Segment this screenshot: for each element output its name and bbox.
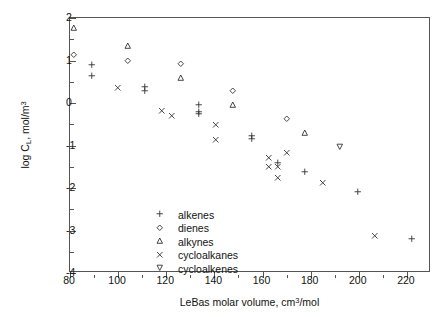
data-point-cycloalkanes [274,174,283,183]
data-point-alkynes [301,129,310,138]
data-point-cycloalkanes [212,121,221,130]
legend-label: cycloalkanes [178,249,238,261]
y-axis-title-mid: , mol/m [19,105,31,139]
y-axis-title: log CL, mol/m3 [19,45,33,225]
y-axis-title-superscript: 3 [19,101,28,105]
x-tick-label: 220 [397,274,415,286]
data-point-dienes [229,87,238,96]
legend-label: alkenes [178,209,214,221]
legend-marker-cross-icon [152,249,178,263]
x-tick-label: 140 [205,274,223,286]
data-point-cycloalkanes [168,112,177,121]
data-point-alkenes [408,235,417,244]
y-axis-title-prefix: log C [19,144,31,169]
scatter-chart-figure: log CL, mol/m3 LeBas molar volume, cm3/m… [0,0,445,317]
legend-marker-diamond-icon [152,222,178,236]
x-tick-minor [383,275,384,279]
data-point-alkenes [354,188,363,197]
x-axis-title: LeBas molar volume, cm3/mol [69,296,430,308]
x-tick-label: 100 [108,274,126,286]
plot-area: alkenesdienesalkynescycloalkanescycloalk… [69,17,430,272]
legend-label: alkynes [178,236,214,248]
chart-legend: alkenesdienesalkynescycloalkanescycloalk… [152,208,238,276]
x-tick-label: 200 [349,274,367,286]
data-point-dienes [124,57,133,66]
x-tick-minor [94,275,95,279]
legend-marker-triangle-up-icon [152,235,178,249]
data-point-cycloalkanes [158,107,167,116]
legend-label: cycloalkenes [178,263,238,275]
y-tick-minor [70,124,74,125]
data-point-alkynes [70,24,79,33]
x-axis-title-prefix: LeBas molar volume, cm [180,296,296,308]
y-tick-minor [70,252,74,253]
data-point-alkenes [88,61,97,70]
data-point-dienes [177,60,186,69]
data-point-alkynes [229,101,238,110]
data-point-cycloalkanes [274,163,283,172]
data-point-alkynes [177,74,186,83]
data-point-cycloalkanes [265,154,274,163]
y-axis-title-subscript: L [24,140,33,144]
data-point-alkenes [195,110,204,119]
legend-item-cycloalkanes: cycloalkanes [152,249,238,263]
legend-item-alkenes: alkenes [152,208,238,222]
x-tick-minor [142,275,143,279]
data-point-alkenes [141,87,150,96]
legend-item-dienes: dienes [152,222,238,236]
data-point-cycloalkanes [283,149,292,158]
y-tick-minor [70,167,74,168]
x-axis-title-suffix: /mol [299,296,319,308]
data-point-alkenes [248,135,257,144]
legend-marker-plus-icon [152,208,178,222]
legend-item-alkynes: alkynes [152,235,238,249]
x-tick-minor [287,275,288,279]
data-point-cycloalkanes [114,84,123,93]
y-tick-minor [70,39,74,40]
x-tick-minor [335,275,336,279]
data-point-alkynes [124,42,133,51]
data-point-alkenes [301,168,310,177]
x-tick-label: 160 [253,274,271,286]
legend-label: dienes [178,222,209,234]
data-point-dienes [283,115,292,124]
data-point-alkenes [88,72,97,81]
y-tick-minor [70,209,74,210]
data-point-cycloalkanes [319,179,328,188]
data-point-cycloalkanes [371,232,380,241]
x-tick-label: 120 [157,274,175,286]
data-point-cycloalkanes [212,136,221,145]
x-tick-minor [238,275,239,279]
data-point-cycloalkenes [336,143,345,152]
y-tick-minor [70,82,74,83]
x-tick-label: 180 [301,274,319,286]
